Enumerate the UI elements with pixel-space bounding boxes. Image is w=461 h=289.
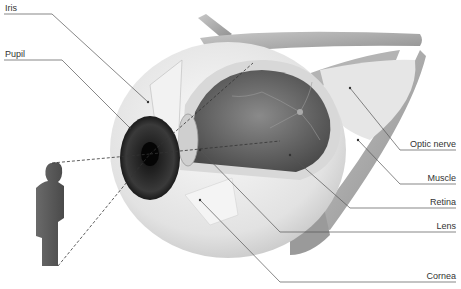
label-muscle: Muscle (427, 173, 456, 183)
label-lens: Lens (436, 221, 456, 231)
lens-shape (178, 114, 198, 166)
eye-illustration (0, 0, 461, 289)
optic-disc (297, 109, 303, 115)
person-figure (36, 162, 64, 266)
label-optic-nerve: Optic nerve (410, 139, 456, 149)
label-iris: Iris (5, 3, 17, 13)
eye-diagram: Iris Pupil Optic nerve Muscle Retina Len… (0, 0, 461, 289)
label-pupil: Pupil (5, 49, 25, 59)
label-retina: Retina (430, 197, 456, 207)
label-cornea: Cornea (426, 271, 456, 281)
